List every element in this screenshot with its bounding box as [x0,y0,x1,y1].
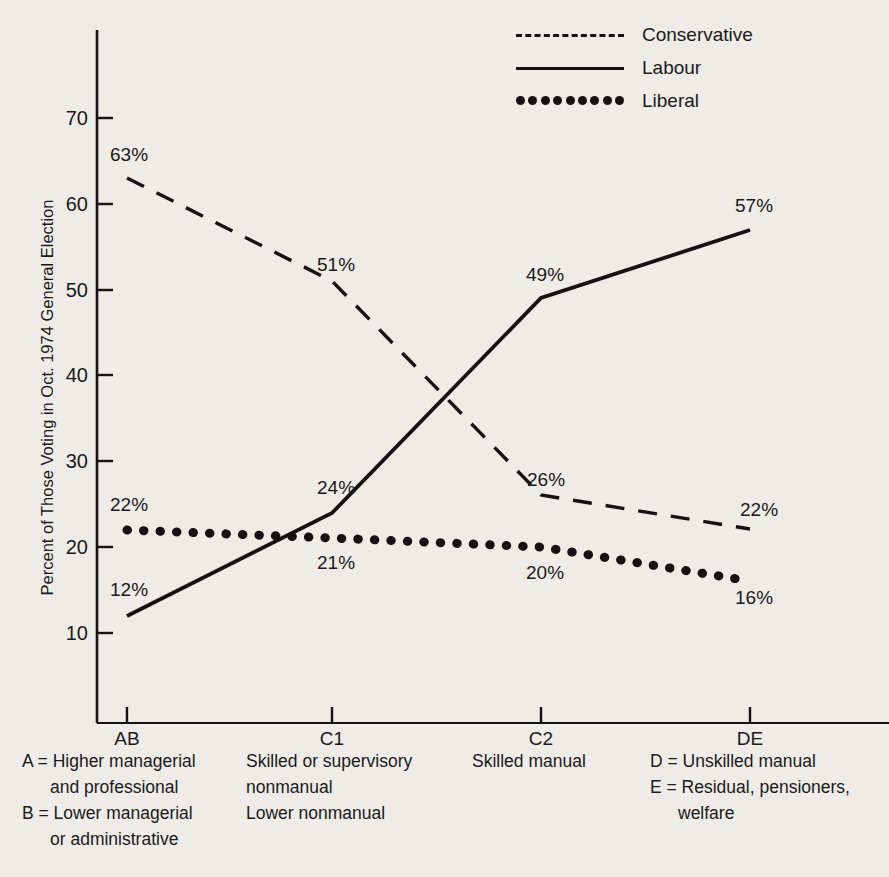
x-axis-ticks [127,707,750,723]
xtick-label-de: DE [715,729,785,749]
legend-swatch-solid-icon [516,58,624,78]
footnote-line: welfare [650,800,889,826]
footnote-line: D = Unskilled manual [650,748,889,774]
footnote-line: Skilled or supervisory [246,748,496,774]
chart-page: 70 60 50 40 30 20 10 AB C1 C2 DE Percent… [0,0,889,877]
series-line-labour [127,230,750,616]
data-label-labour-ab: 12% [110,580,148,600]
data-label-labour-c1: 24% [317,478,355,498]
footnote-line: B = Lower managerial [22,800,272,826]
xtick-label-c1: C1 [297,729,367,749]
data-label-labour-de: 57% [735,196,773,216]
data-label-conservative-c2: 26% [527,470,565,490]
footnote-line: E = Residual, pensioners, [650,774,889,800]
data-label-conservative-ab: 63% [110,145,148,165]
footnote-line: A = Higher managerial [22,748,272,774]
data-label-conservative-c1: 51% [317,255,355,275]
legend-label-labour: Labour [642,57,701,79]
legend-item-labour[interactable]: Labour [516,51,846,84]
data-label-labour-c2: 49% [526,265,564,285]
legend-label-conservative: Conservative [642,24,753,46]
footnote-column-c1: Skilled or supervisory nonmanual Lower n… [246,748,496,826]
chart-plot-area: 70 60 50 40 30 20 10 AB C1 C2 DE Percent… [0,0,889,745]
chart-legend: Conservative Labour Liberal [516,18,846,117]
legend-item-liberal[interactable]: Liberal [516,84,846,117]
category-key-footnotes: A = Higher managerial and professional B… [0,748,889,877]
data-label-conservative-de: 22% [740,500,778,520]
footnote-line: Skilled manual [472,748,662,774]
series-line-liberal [127,530,750,581]
footnote-column-c2: Skilled manual [472,748,662,774]
xtick-label-c2: C2 [506,729,576,749]
legend-swatch-dashed-icon [516,25,624,45]
legend-label-liberal: Liberal [642,90,699,112]
xtick-label-ab: AB [92,729,162,749]
footnote-column-ab: A = Higher managerial and professional B… [22,748,272,852]
data-label-liberal-c1: 21% [317,553,355,573]
y-axis-title: Percent of Those Voting in Oct. 1974 Gen… [38,138,57,658]
footnote-line: Lower nonmanual [246,800,496,826]
footnote-line: nonmanual [246,774,496,800]
footnote-column-de: D = Unskilled manual E = Residual, pensi… [650,748,889,826]
footnote-line: or administrative [22,826,272,852]
footnote-line: and professional [22,774,272,800]
legend-item-conservative[interactable]: Conservative [516,18,846,51]
data-label-liberal-de: 16% [735,588,773,608]
ytick-label: 70 [48,108,88,128]
legend-swatch-dotted-icon [516,91,624,111]
data-label-liberal-ab: 22% [110,495,148,515]
data-label-liberal-c2: 20% [526,563,564,583]
y-axis-ticks [97,118,113,633]
series-line-conservative [127,178,750,529]
